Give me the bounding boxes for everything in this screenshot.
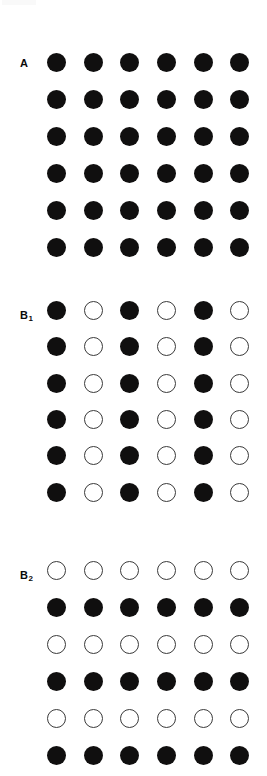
dot-filled xyxy=(47,238,66,257)
dot-filled xyxy=(157,90,176,109)
dot-filled xyxy=(157,53,176,72)
dot-filled xyxy=(157,598,176,617)
dot-filled xyxy=(194,374,213,393)
dot-filled xyxy=(157,127,176,146)
dot-filled xyxy=(47,164,66,183)
dot-filled xyxy=(84,238,103,257)
dot-filled xyxy=(120,164,139,183)
dot-filled xyxy=(120,746,139,765)
dot-filled xyxy=(120,53,139,72)
dot-filled xyxy=(120,410,139,429)
dot-filled xyxy=(47,598,66,617)
dot-filled xyxy=(194,337,213,356)
dot-filled xyxy=(120,301,139,320)
dot-open xyxy=(157,374,176,393)
dot-open xyxy=(157,483,176,502)
dot-filled xyxy=(230,201,249,220)
dot-open xyxy=(230,337,249,356)
panel-label-b1: B1 xyxy=(20,310,33,321)
dot-filled xyxy=(194,164,213,183)
dot-filled xyxy=(47,483,66,502)
dot-filled xyxy=(47,301,66,320)
dot-open xyxy=(157,635,176,654)
dot-filled xyxy=(230,164,249,183)
dot-filled xyxy=(194,483,213,502)
dot-open xyxy=(47,635,66,654)
dot-filled xyxy=(47,374,66,393)
dot-filled xyxy=(47,746,66,765)
dot-filled xyxy=(194,53,213,72)
dot-open xyxy=(157,561,176,580)
dot-open xyxy=(84,446,103,465)
dot-open xyxy=(84,561,103,580)
dot-open xyxy=(120,561,139,580)
dot-filled xyxy=(120,90,139,109)
dot-open xyxy=(194,709,213,728)
dot-filled xyxy=(194,746,213,765)
dot-filled xyxy=(230,53,249,72)
dot-filled xyxy=(84,53,103,72)
dot-filled xyxy=(194,410,213,429)
dot-filled xyxy=(194,672,213,691)
dot-filled xyxy=(230,127,249,146)
dot-open xyxy=(157,301,176,320)
dot-filled xyxy=(84,127,103,146)
dot-filled xyxy=(120,598,139,617)
dot-lattice-figure: AB1B2 xyxy=(0,0,267,776)
panel-label-b2: B2 xyxy=(20,570,33,581)
dot-filled xyxy=(157,238,176,257)
dot-open xyxy=(84,709,103,728)
dot-open xyxy=(157,709,176,728)
crop-artifact xyxy=(2,0,36,5)
dot-open xyxy=(47,561,66,580)
dot-open xyxy=(230,483,249,502)
dot-open xyxy=(157,410,176,429)
dot-filled xyxy=(194,238,213,257)
dot-filled xyxy=(120,201,139,220)
dot-filled xyxy=(157,746,176,765)
dot-filled xyxy=(230,746,249,765)
dot-filled xyxy=(47,53,66,72)
dot-filled xyxy=(194,446,213,465)
dot-open xyxy=(84,374,103,393)
dot-open xyxy=(230,635,249,654)
dot-filled xyxy=(157,201,176,220)
dot-open xyxy=(47,709,66,728)
dot-filled xyxy=(84,90,103,109)
dot-open xyxy=(84,337,103,356)
dot-filled xyxy=(47,410,66,429)
dot-open xyxy=(230,561,249,580)
dot-filled xyxy=(84,746,103,765)
dot-open xyxy=(194,561,213,580)
dot-filled xyxy=(194,301,213,320)
dot-filled xyxy=(120,238,139,257)
dot-filled xyxy=(120,483,139,502)
dot-filled xyxy=(47,90,66,109)
dot-filled xyxy=(47,672,66,691)
panel-label-main: B xyxy=(20,309,28,321)
dot-open xyxy=(120,635,139,654)
panel-label-subscript: 2 xyxy=(28,574,33,583)
dot-filled xyxy=(194,127,213,146)
dot-filled xyxy=(84,201,103,220)
dot-filled xyxy=(84,672,103,691)
dot-filled xyxy=(230,90,249,109)
dot-filled xyxy=(120,672,139,691)
dot-open xyxy=(84,301,103,320)
dot-filled xyxy=(194,598,213,617)
dot-filled xyxy=(47,201,66,220)
dot-filled xyxy=(84,598,103,617)
dot-open xyxy=(84,410,103,429)
dot-filled xyxy=(157,672,176,691)
dot-open xyxy=(194,635,213,654)
dot-filled xyxy=(120,374,139,393)
dot-filled xyxy=(47,446,66,465)
dot-filled xyxy=(230,672,249,691)
panel-label-main: A xyxy=(20,57,28,69)
dot-open xyxy=(230,410,249,429)
panel-label-a: A xyxy=(20,58,28,69)
dot-filled xyxy=(194,90,213,109)
dot-filled xyxy=(157,164,176,183)
dot-filled xyxy=(194,201,213,220)
dot-filled xyxy=(230,598,249,617)
